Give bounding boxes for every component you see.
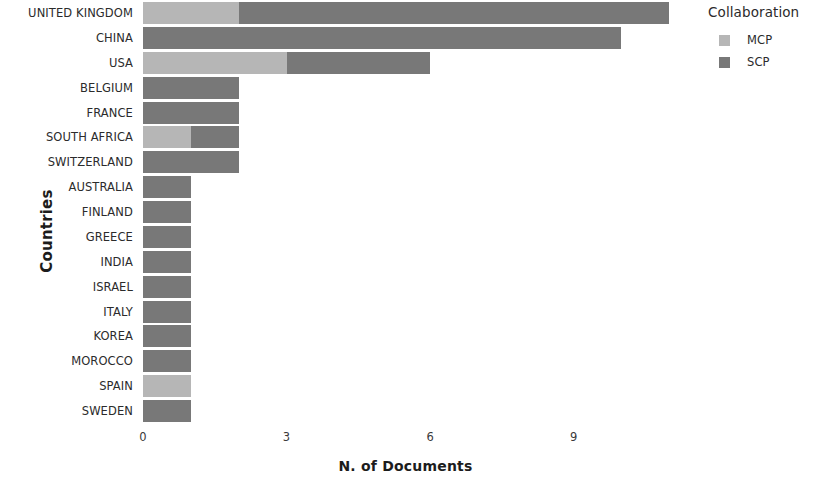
bar-segment-scp[interactable] bbox=[143, 151, 239, 173]
bar-row[interactable] bbox=[143, 27, 621, 49]
legend-swatch-icon bbox=[719, 57, 730, 68]
bar-row[interactable] bbox=[143, 151, 239, 173]
y-axis-tick-label: AUSTRALIA bbox=[0, 180, 133, 194]
bar-segment-scp[interactable] bbox=[143, 251, 191, 273]
y-axis-tick-label: GREECE bbox=[0, 230, 133, 244]
x-axis-tick-label: 3 bbox=[267, 430, 307, 444]
bar-segment-scp[interactable] bbox=[143, 350, 191, 372]
bar-row[interactable] bbox=[143, 350, 191, 372]
y-axis-tick-label: SOUTH AFRICA bbox=[0, 130, 133, 144]
bar-segment-scp[interactable] bbox=[239, 2, 670, 24]
bar-chart: UNITED KINGDOMCHINAUSABELGIUMFRANCESOUTH… bbox=[0, 0, 816, 481]
bar-row[interactable] bbox=[143, 226, 191, 248]
plot-area bbox=[143, 2, 698, 425]
y-axis-tick-label: MOROCCO bbox=[0, 354, 133, 368]
bar-segment-scp[interactable] bbox=[191, 126, 239, 148]
legend-label: MCP bbox=[747, 33, 772, 47]
bar-segment-scp[interactable] bbox=[143, 77, 239, 99]
x-axis-tick-label: 6 bbox=[410, 430, 450, 444]
legend: Collaboration MCPSCP bbox=[708, 4, 812, 73]
bar-row[interactable] bbox=[143, 375, 191, 397]
y-axis-tick-label: SPAIN bbox=[0, 379, 133, 393]
bar-segment-mcp[interactable] bbox=[143, 375, 191, 397]
bar-row[interactable] bbox=[143, 276, 191, 298]
legend-item-mcp[interactable]: MCP bbox=[719, 29, 812, 51]
bar-row[interactable] bbox=[143, 400, 191, 422]
bar-segment-scp[interactable] bbox=[143, 400, 191, 422]
y-axis-tick-label: ISRAEL bbox=[0, 280, 133, 294]
bar-segment-scp[interactable] bbox=[143, 276, 191, 298]
bar-segment-mcp[interactable] bbox=[143, 52, 287, 74]
bar-row[interactable] bbox=[143, 102, 239, 124]
bar-row[interactable] bbox=[143, 201, 191, 223]
y-axis-tick-labels: UNITED KINGDOMCHINAUSABELGIUMFRANCESOUTH… bbox=[0, 0, 133, 481]
x-axis-tick-label: 0 bbox=[123, 430, 163, 444]
y-axis-tick-label: FINLAND bbox=[0, 205, 133, 219]
y-axis-title: Countries bbox=[38, 171, 56, 291]
legend-swatch-icon bbox=[719, 35, 730, 46]
legend-label: SCP bbox=[747, 55, 770, 69]
x-axis-title: N. of Documents bbox=[143, 458, 668, 474]
bar-segment-scp[interactable] bbox=[143, 325, 191, 347]
bar-segment-scp[interactable] bbox=[143, 301, 191, 323]
bar-row[interactable] bbox=[143, 52, 430, 74]
bar-row[interactable] bbox=[143, 251, 191, 273]
y-axis-tick-label: INDIA bbox=[0, 255, 133, 269]
legend-item-scp[interactable]: SCP bbox=[719, 51, 812, 73]
bar-row[interactable] bbox=[143, 77, 239, 99]
y-axis-tick-label: USA bbox=[0, 56, 133, 70]
legend-entries: MCPSCP bbox=[708, 29, 812, 73]
y-axis-tick-label: SWITZERLAND bbox=[0, 155, 133, 169]
bar-segment-mcp[interactable] bbox=[143, 126, 191, 148]
x-axis-tick-labels: 0369 bbox=[0, 430, 816, 450]
bar-row[interactable] bbox=[143, 176, 191, 198]
bar-segment-scp[interactable] bbox=[143, 176, 191, 198]
bar-segment-scp[interactable] bbox=[287, 52, 431, 74]
legend-title: Collaboration bbox=[708, 4, 812, 20]
bar-segment-scp[interactable] bbox=[143, 27, 621, 49]
bar-segment-mcp[interactable] bbox=[143, 2, 239, 24]
y-axis-tick-label: ITALY bbox=[0, 305, 133, 319]
x-axis-tick-label: 9 bbox=[554, 430, 594, 444]
y-axis-tick-label: UNITED KINGDOM bbox=[0, 6, 133, 20]
bar-row[interactable] bbox=[143, 2, 669, 24]
y-axis-tick-label: BELGIUM bbox=[0, 81, 133, 95]
bar-segment-scp[interactable] bbox=[143, 102, 239, 124]
y-axis-tick-label: CHINA bbox=[0, 31, 133, 45]
bar-row[interactable] bbox=[143, 325, 191, 347]
bar-row[interactable] bbox=[143, 126, 239, 148]
y-axis-tick-label: SWEDEN bbox=[0, 404, 133, 418]
bar-segment-scp[interactable] bbox=[143, 226, 191, 248]
y-axis-tick-label: KOREA bbox=[0, 329, 133, 343]
bar-row[interactable] bbox=[143, 301, 191, 323]
y-axis-tick-label: FRANCE bbox=[0, 106, 133, 120]
bar-segment-scp[interactable] bbox=[143, 201, 191, 223]
